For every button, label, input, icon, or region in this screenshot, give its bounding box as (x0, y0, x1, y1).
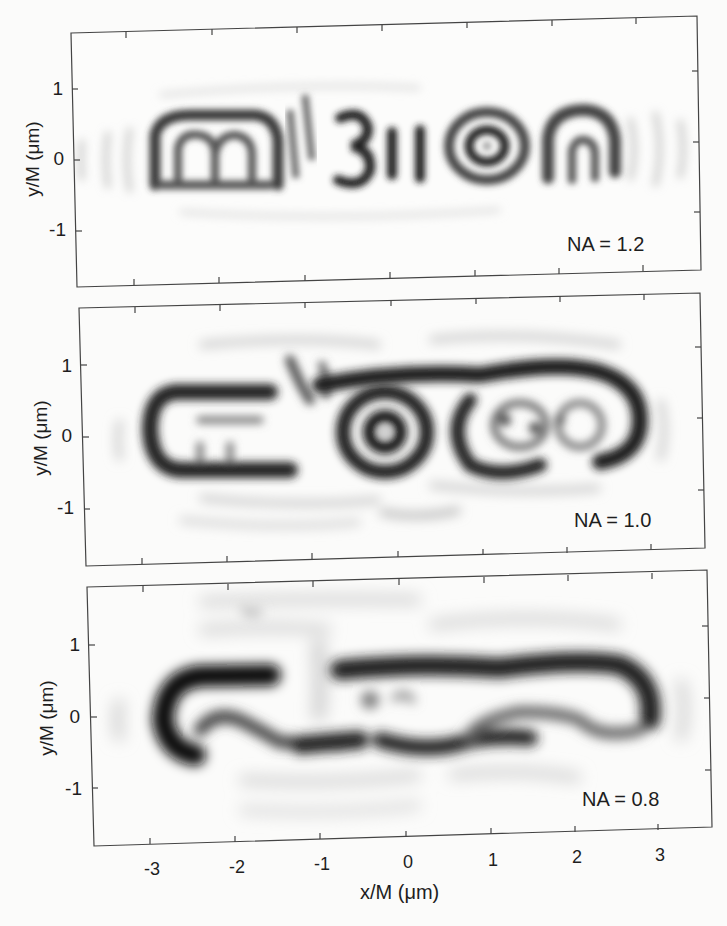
xtick-0: 0 (393, 852, 423, 873)
xtick-neg3: -3 (137, 859, 167, 880)
na-annotation: NA = 0.8 (582, 788, 659, 811)
panel-bottom: 1 0 -1 y/M (μm) NA = 0.8 -3 -2 -1 0 1 2 … (0, 0, 727, 926)
figure: 1 0 -1 y/M (μm) NA = 1.2 (0, 0, 727, 926)
ytick-neg1: -1 (52, 778, 82, 800)
xtick-neg1: -1 (307, 854, 337, 875)
ytick-1: 1 (50, 634, 80, 656)
y-axis-label: y/M (μm) (36, 673, 58, 763)
xtick-3: 3 (645, 845, 675, 866)
x-axis-label: x/M (μm) (360, 881, 439, 904)
xtick-1: 1 (478, 850, 508, 871)
xtick-2: 2 (562, 847, 592, 868)
xtick-neg2: -2 (222, 857, 252, 878)
